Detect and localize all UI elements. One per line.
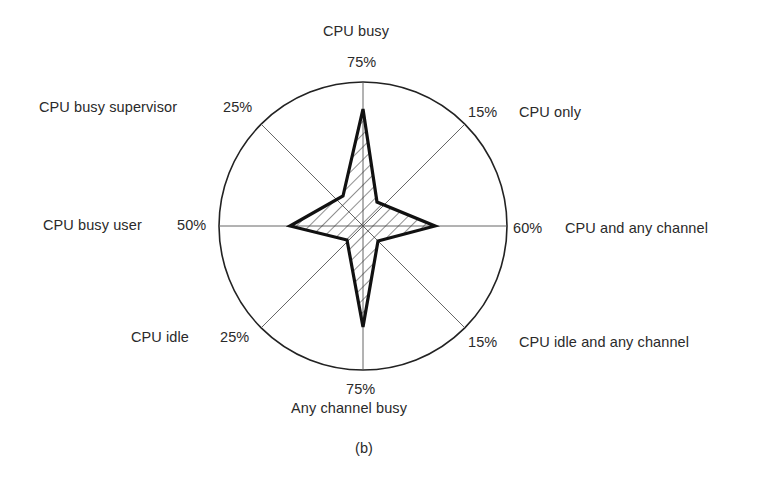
data-polygon [290, 109, 435, 327]
axis-label-cpu-busy: CPU busy [323, 23, 389, 39]
axis-label-cpu-idle-and-any-channel: CPU idle and any channel [519, 334, 689, 350]
axis-label-cpu-idle: CPU idle [131, 329, 189, 345]
axis-value-cpu-busy: 75% [347, 54, 376, 70]
axis-value-cpu-and-any-channel: 60% [513, 220, 542, 236]
axis-value-cpu-busy-supervisor: 25% [223, 99, 252, 115]
axis-label-cpu-only: CPU only [519, 104, 581, 120]
axis-label-cpu-busy-supervisor: CPU busy supervisor [39, 99, 177, 115]
axis-value-cpu-idle: 25% [220, 329, 249, 345]
figure-caption: (b) [355, 440, 373, 456]
axis-label-any-channel-busy: Any channel busy [291, 400, 407, 416]
axis-value-cpu-only: 15% [468, 104, 497, 120]
axis-value-cpu-busy-user: 50% [177, 217, 206, 233]
axis-value-any-channel-busy: 75% [346, 381, 375, 397]
axis-label-cpu-busy-user: CPU busy user [43, 217, 142, 233]
axis-value-cpu-idle-and-any-channel: 15% [468, 334, 497, 350]
axis-label-cpu-and-any-channel: CPU and any channel [565, 220, 708, 236]
